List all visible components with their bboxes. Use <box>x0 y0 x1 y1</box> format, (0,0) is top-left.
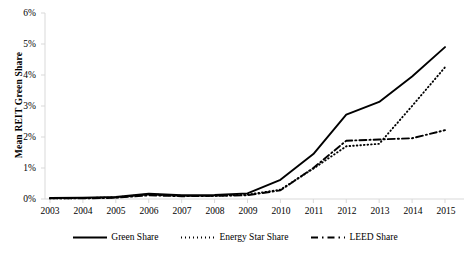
chart-legend: Green Share Energy Star Share LEED Share <box>0 232 470 242</box>
legend-entry-energy-star-share: Energy Star Share <box>180 232 288 242</box>
legend-swatch-dotted <box>180 233 216 242</box>
legend-label-green-share: Green Share <box>111 232 158 242</box>
x-tick-marks <box>50 199 445 203</box>
legend-label-leed-share: LEED Share <box>349 232 397 242</box>
legend-entry-leed-share: LEED Share <box>310 232 397 242</box>
plot-area <box>0 0 470 258</box>
legend-entry-green-share: Green Share <box>72 232 158 242</box>
chart-container: Mean REIT Green Share 6% 5% 4% 3% 2% 1% … <box>0 0 470 258</box>
legend-swatch-dash-dot <box>310 233 346 242</box>
series-line-energy-star-share <box>50 67 445 198</box>
series-line-green-share <box>50 47 445 198</box>
legend-label-energy-star-share: Energy Star Share <box>219 232 288 242</box>
series-line-leed-share <box>50 130 445 198</box>
legend-swatch-solid <box>72 233 108 242</box>
